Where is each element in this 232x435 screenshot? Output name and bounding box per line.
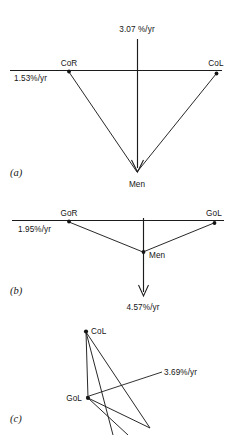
panel-b-node-gol: [213, 221, 217, 225]
panel-b-node-gor: [67, 220, 71, 224]
panel-b-vector-gol-men: [143, 223, 214, 252]
panel-a-label-men: Men: [129, 180, 146, 189]
panel-c-node-col: [84, 329, 88, 333]
panel-a-id: (a): [10, 167, 23, 179]
panel-c-vector-gol-lower-right: [88, 398, 150, 428]
panel-c-vector-gol-lower-edge: [88, 398, 128, 435]
panel-b-vertical-rate-label: 4.57%/yr: [126, 303, 159, 312]
panel-c-vector-col-gol: [86, 332, 88, 398]
panel-c-vector-col-lower-left: [86, 332, 113, 435]
panel-a-group: 3.07 %/yr CoR CoL 1.53%/yr Men (a): [10, 25, 224, 189]
panel-b-label-gor: GoR: [60, 209, 77, 218]
panel-c-vector-col-lower-right: [86, 332, 150, 428]
panel-b-node-men: [142, 250, 146, 254]
panel-b-group: GoR GoL 1.95%/yr Men 4.57%/yr (b): [10, 209, 224, 312]
panel-c-group: CoL GoL 3.69%/yr (c): [10, 327, 197, 435]
panel-b-label-gol: GoL: [206, 209, 222, 218]
panel-b-horizontal-rate-label: 1.95%/yr: [18, 225, 51, 234]
panel-a-label-col: CoL: [208, 59, 224, 68]
panel-b-id: (b): [10, 285, 23, 297]
panel-b-vector-gor-men: [69, 222, 143, 252]
growth-vector-diagram: 3.07 %/yr CoR CoL 1.53%/yr Men (a) GoR G…: [0, 0, 232, 435]
panel-c-label-col: CoL: [91, 327, 107, 336]
panel-c-id: (c): [10, 413, 22, 425]
panel-c-node-gol: [86, 396, 90, 400]
panel-c-label-gol: GoL: [66, 394, 82, 403]
panel-a-horizontal-rate-label: 1.53%/yr: [14, 74, 47, 83]
panel-c-oblique-rate-label: 3.69%/yr: [164, 368, 197, 377]
panel-a-label-cor: CoR: [61, 59, 78, 68]
panel-a-node-col: [215, 72, 219, 76]
panel-a-node-cor: [67, 70, 71, 74]
panel-a-vector-cor-men: [69, 72, 137, 172]
panel-a-vector-col-men: [137, 74, 216, 172]
panel-b-label-men: Men: [149, 251, 166, 260]
figure-container: 3.07 %/yr CoR CoL 1.53%/yr Men (a) GoR G…: [0, 0, 232, 435]
panel-a-vertical-rate-label: 3.07 %/yr: [119, 25, 155, 34]
